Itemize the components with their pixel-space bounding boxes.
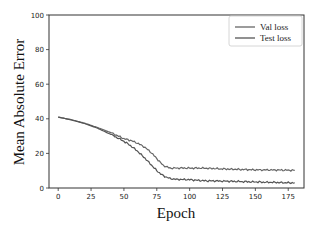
x-tick-label: 125: [216, 193, 229, 201]
series-line-val-loss: [58, 117, 295, 171]
y-tick-label: 80: [35, 46, 44, 54]
x-tick-label: 50: [119, 193, 128, 201]
x-tick-label: 0: [56, 193, 60, 201]
x-tick-label: 150: [249, 193, 262, 201]
y-tick-label: 100: [31, 12, 44, 20]
legend: Val loss Test loss: [229, 16, 302, 46]
y-axis-label: Mean Absolute Error: [11, 39, 27, 166]
x-tick-label: 100: [183, 193, 196, 201]
y-tick-label: 40: [35, 115, 44, 123]
legend-label-val: Val loss: [260, 22, 289, 32]
x-tick-label: 75: [152, 193, 161, 201]
y-tick-label: 0: [40, 185, 44, 193]
x-tick-label: 175: [282, 193, 295, 201]
x-tick-label: 25: [87, 193, 96, 201]
line-chart: 0255075100125150175020406080100 Epoch Me…: [0, 0, 318, 230]
y-tick-label: 20: [35, 150, 44, 158]
series-line-test-loss: [58, 117, 295, 183]
y-tick-label: 60: [35, 81, 44, 89]
legend-label-test: Test loss: [260, 33, 292, 43]
x-axis-label: Epoch: [157, 205, 196, 221]
